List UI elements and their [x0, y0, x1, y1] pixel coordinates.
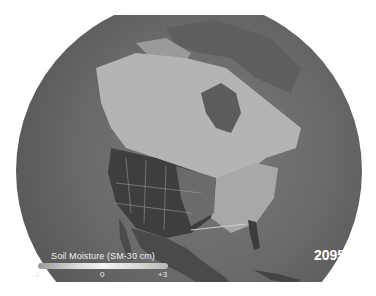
globe [16, 15, 362, 282]
soil-moisture-legend: Soil Moisture (SM-30 cm) -3 0 +3 [38, 251, 168, 280]
legend-min-label: -3 [32, 270, 39, 279]
year-label: 2095 [314, 247, 345, 263]
legend-max-label: +3 [158, 270, 167, 279]
legend-ticks: -3 0 +3 [38, 269, 168, 280]
map-frame: Soil Moisture (SM-30 cm) -3 0 +3 2095 [0, 15, 376, 282]
land-masses [16, 15, 362, 282]
legend-title: Soil Moisture (SM-30 cm) [38, 251, 168, 261]
legend-mid-label: 0 [100, 270, 104, 279]
